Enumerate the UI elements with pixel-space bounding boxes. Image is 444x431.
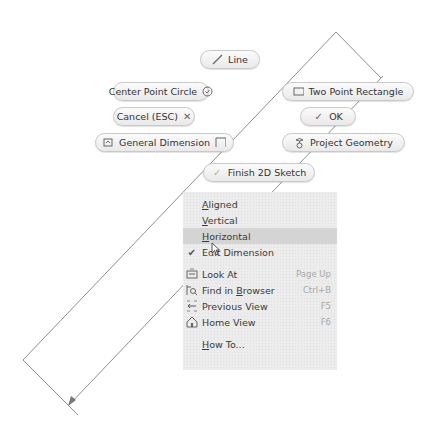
two-point-rectangle-label: Two Point Rectangle — [309, 86, 404, 97]
checkmark-icon: ✔ — [186, 246, 198, 258]
menu-item-home-view[interactable]: Home View F6 — [183, 314, 337, 330]
cancel-button[interactable]: Cancel (ESC) ✕ — [113, 107, 195, 126]
sketch-line-top-right[interactable] — [336, 32, 381, 78]
menu-item-label: ligned — [209, 199, 238, 210]
shortcut: F6 — [321, 317, 331, 327]
circle-icon — [202, 86, 213, 97]
menu-item-label-rest: rowser — [243, 285, 275, 296]
project-geometry-button[interactable]: Project Geometry — [282, 133, 405, 152]
menu-item-horizontal[interactable]: Horizontal — [183, 228, 337, 244]
menu-item-edit-dimension[interactable]: ✔ Edit Dimension — [183, 244, 337, 260]
dimension-icon — [215, 137, 226, 148]
center-point-circle-button[interactable]: Center Point Circle — [113, 82, 209, 101]
menu-item-label: orizontal — [209, 231, 250, 242]
cancel-label: Cancel (ESC) — [117, 111, 178, 122]
line-button[interactable]: Line — [200, 50, 260, 69]
ok-button[interactable]: ✓ OK — [300, 107, 356, 126]
rectangle-icon — [293, 86, 304, 97]
previous-view-icon — [186, 300, 198, 312]
two-point-rectangle-button[interactable]: Two Point Rectangle — [282, 82, 414, 101]
menu-item-how-to[interactable]: How To... — [183, 336, 337, 352]
menu-item-label: Look At — [202, 269, 237, 280]
context-menu: Aligned Vertical Horizontal ✔ Edit Dimen… — [183, 192, 337, 370]
line-icon — [212, 54, 223, 65]
look-at-icon — [186, 268, 198, 280]
project-geometry-label: Project Geometry — [310, 137, 393, 148]
finish-sketch-label: Finish 2D Sketch — [228, 167, 306, 178]
dimension-arrowhead — [68, 396, 76, 406]
close-icon: ✕ — [183, 111, 191, 122]
dimension-small-icon — [103, 137, 114, 148]
menu-item-label: Previous View — [202, 301, 268, 312]
menu-item-label: ertical — [208, 215, 238, 226]
menu-item-label: Find in — [202, 285, 236, 296]
project-geometry-icon — [294, 137, 305, 148]
menu-item-find-in-browser[interactable]: Find in Browser Ctrl+B — [183, 282, 337, 298]
shortcut: Page Up — [296, 269, 331, 279]
general-dimension-button[interactable]: General Dimension — [95, 133, 234, 152]
menu-item-aligned[interactable]: Aligned — [183, 196, 337, 212]
finish-sketch-icon: ✓ — [212, 167, 223, 178]
checkmark-icon: ✓ — [313, 111, 324, 122]
ok-label: OK — [329, 111, 343, 122]
menu-item-label: ow To... — [209, 339, 245, 350]
menu-item-previous-view[interactable]: Previous View F5 — [183, 298, 337, 314]
general-dimension-label: General Dimension — [119, 137, 210, 148]
menu-item-vertical[interactable]: Vertical — [183, 212, 337, 228]
sketch-line-bottom[interactable] — [23, 360, 78, 415]
center-point-circle-label: Center Point Circle — [109, 86, 197, 97]
menu-item-label: Home View — [202, 317, 256, 328]
mouse-cursor-icon — [211, 242, 221, 256]
find-in-browser-icon — [186, 284, 198, 296]
shortcut: F5 — [321, 301, 331, 311]
menu-item-look-at[interactable]: Look At Page Up — [183, 266, 337, 282]
finish-sketch-button[interactable]: ✓ Finish 2D Sketch — [203, 163, 315, 182]
line-label: Line — [228, 54, 248, 65]
home-view-icon — [186, 316, 198, 328]
shortcut: Ctrl+B — [303, 285, 331, 295]
